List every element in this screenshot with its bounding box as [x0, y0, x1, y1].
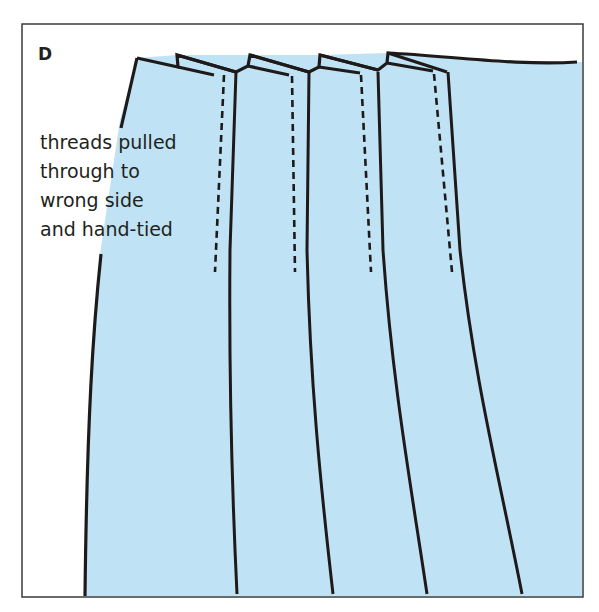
- callout-line-3: wrong side: [40, 186, 177, 215]
- pleat-diagram: [0, 0, 599, 612]
- callout-text: threads pulled through to wrong side and…: [40, 128, 177, 244]
- panel-label: D: [38, 44, 52, 64]
- callout-line-2: through to: [40, 157, 177, 186]
- callout-line-4: and hand-tied: [40, 215, 177, 244]
- callout-line-1: threads pulled: [40, 128, 177, 157]
